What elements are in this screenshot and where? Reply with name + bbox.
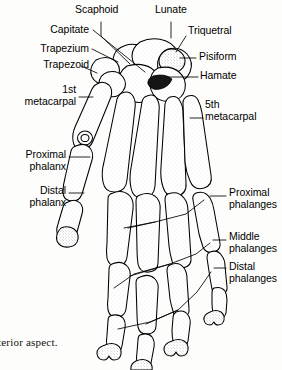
label-triquetral: Triquetral <box>188 25 231 37</box>
proximal-phalanges-group <box>107 192 221 273</box>
label-distal-phalanx: Distal phalanx <box>4 185 66 208</box>
ring-middle-phalanx <box>167 264 189 318</box>
middle-proximal-phalanx <box>136 194 160 273</box>
label-proximal-phalanx: Proximal phalanx <box>4 149 66 172</box>
label-hamate: Hamate <box>200 70 236 82</box>
label-proximal-phalanges: Proximal phalanges <box>229 187 277 210</box>
index-tuft <box>97 344 121 361</box>
fourth-metacarpal-bone <box>161 97 186 197</box>
index-middle-phalanx <box>108 262 131 317</box>
label-pisiform: Pisiform <box>199 51 237 63</box>
hand-skeleton-figure: Scaphoid Lunate Capitate Triquetral Trap… <box>0 0 282 370</box>
label-distal-phalanges: Distal phalanges <box>229 261 277 284</box>
little-proximal-phalanx <box>193 192 220 252</box>
sesamoid-inner <box>81 134 89 141</box>
label-trapezoid: Trapezoid <box>11 59 89 71</box>
thumb-tuft <box>57 227 79 247</box>
middle-tuft <box>131 360 152 370</box>
label-middle-phalanges: Middle phalanges <box>229 231 277 254</box>
label-lunate: Lunate <box>155 4 187 16</box>
label-trapezium: Trapezium <box>10 43 89 55</box>
label-fifth-metacarpal: 5th metacarpal <box>205 99 256 122</box>
figure-caption: terior aspect. <box>0 336 58 348</box>
ring-tuft <box>164 340 188 357</box>
label-capitate: Capitate <box>16 24 89 36</box>
little-tuft <box>204 311 224 326</box>
index-proximal-phalanx <box>107 192 134 267</box>
middle-middle-phalanx <box>136 275 158 334</box>
label-first-metacarpal: 1st metacarpal <box>6 84 76 107</box>
label-scaphoid: Scaphoid <box>75 4 118 16</box>
distal-phalanges-fan-a <box>118 272 211 329</box>
